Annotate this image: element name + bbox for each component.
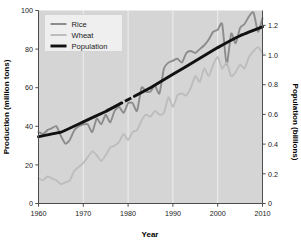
y-tick-label-40: 40 — [25, 122, 33, 131]
x-tick-label-2000: 2000 — [210, 209, 226, 218]
x-tick-label-1980: 1980 — [120, 209, 136, 218]
legend-label-wheat[interactable]: Wheat — [72, 31, 95, 40]
legend-label-population[interactable]: Population — [72, 42, 108, 51]
chart-figure: 196019701980199020002010 020406080100 00… — [0, 0, 301, 241]
chart-legend[interactable]: RiceWheatPopulation — [45, 15, 123, 52]
y2-tick-label-1.0: 1.0 — [268, 51, 278, 60]
y2-tick-label-1.2: 1.2 — [268, 21, 278, 30]
x-axis-title: Year — [142, 230, 159, 239]
y-tick-label-60: 60 — [25, 83, 33, 92]
legend-label-rice[interactable]: Rice — [72, 20, 87, 29]
y2-tick-label-0.6: 0.6 — [268, 110, 278, 119]
y2-tick-label-0.4: 0.4 — [268, 140, 278, 149]
y2-tick-label-0: 0 — [268, 199, 272, 208]
y2-tick-label-0.8: 0.8 — [268, 80, 278, 89]
y2-tick-label-0.2: 0.2 — [268, 170, 278, 179]
y-tick-label-100: 100 — [21, 6, 33, 15]
x-tick-label-2010: 2010 — [255, 209, 271, 218]
y-tick-label-20: 20 — [25, 161, 33, 170]
x-tick-label-1990: 1990 — [165, 209, 181, 218]
y-axis-left-title: Production (million tons) — [2, 59, 11, 154]
y-tick-label-80: 80 — [25, 45, 33, 54]
production-population-line-chart: 196019701980199020002010 020406080100 00… — [0, 0, 301, 241]
y-tick-label-0: 0 — [29, 199, 33, 208]
x-tick-label-1970: 1970 — [75, 209, 91, 218]
y-axis-right-title: Population (billions) — [291, 84, 300, 161]
x-tick-label-1960: 1960 — [31, 209, 47, 218]
